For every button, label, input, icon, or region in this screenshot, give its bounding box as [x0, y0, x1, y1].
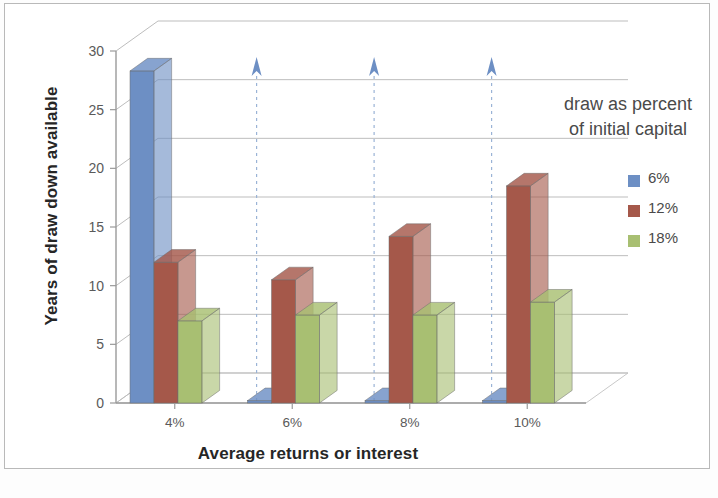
bar-10%-18%: [531, 289, 573, 403]
y-axis-title: Years of draw down available: [42, 76, 62, 336]
legend-title: draw as percent of initial capital: [540, 92, 716, 142]
bar-front: [483, 401, 507, 403]
legend-label-1: 12%: [648, 199, 678, 216]
legend-swatch-0: [628, 175, 640, 187]
bar-side: [320, 302, 338, 403]
bar-front: [248, 401, 272, 403]
legend-label-0: 6%: [648, 169, 670, 186]
chart-page: 0510152025304%6%8%10% Years of draw down…: [0, 0, 718, 498]
bar-front: [389, 236, 413, 403]
bar-front: [272, 280, 296, 403]
bar-front: [413, 315, 437, 403]
legend-title-line2: of initial capital: [540, 117, 716, 142]
y-tick-label-10: 10: [88, 278, 104, 294]
x-tick-label-10%: 10%: [514, 415, 541, 430]
bar-6%-18%: [296, 302, 338, 403]
bar-chart-3d: 0510152025304%6%8%10%: [0, 0, 718, 498]
x-tick-label-4%: 4%: [165, 415, 185, 430]
bar-side: [202, 308, 220, 403]
bar-front: [531, 302, 555, 403]
legend-swatch-1: [628, 205, 640, 217]
y-tick-label-5: 5: [96, 336, 104, 352]
y-tick-label-0: 0: [96, 395, 104, 411]
x-axis-title: Average returns or interest: [108, 444, 508, 464]
bar-4%-18%: [178, 308, 220, 403]
bar-front: [507, 186, 531, 403]
y-tick-label-15: 15: [88, 219, 104, 235]
y-tick-label-25: 25: [88, 102, 104, 118]
legend-title-line1: draw as percent: [540, 92, 716, 117]
bar-side: [555, 289, 573, 403]
y-tick-label-20: 20: [88, 160, 104, 176]
legend-label-2: 18%: [648, 229, 678, 246]
bar-front: [130, 71, 154, 403]
y-tick-label-30: 30: [88, 43, 104, 59]
x-tick-label-6%: 6%: [282, 415, 302, 430]
legend-swatch-2: [628, 235, 640, 247]
bar-front: [154, 262, 178, 403]
bar-front: [365, 401, 389, 403]
bar-8%-18%: [413, 302, 455, 403]
x-tick-label-8%: 8%: [400, 415, 420, 430]
bar-side: [437, 302, 455, 403]
bar-front: [296, 315, 320, 403]
bar-front: [178, 321, 202, 403]
